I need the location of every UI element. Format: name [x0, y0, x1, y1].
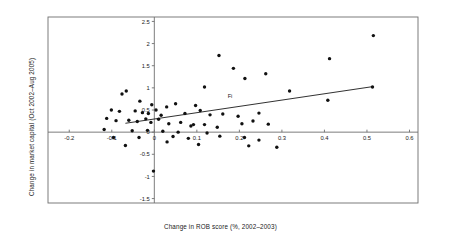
- y-tick-label: -1: [145, 174, 150, 180]
- data-point: [240, 122, 243, 125]
- data-point: [165, 140, 168, 143]
- data-point: [267, 122, 270, 125]
- plot-canvas: -0.2-0.100.10.20.30.40.50.6 -1.5-1-0.500…: [0, 0, 458, 238]
- data-point: [275, 146, 278, 149]
- data-point: [146, 129, 149, 132]
- data-point: [102, 128, 105, 131]
- data-point: [216, 126, 219, 129]
- x-tick-label: -0.2: [64, 135, 74, 141]
- data-point: [251, 119, 254, 122]
- data-point: [167, 122, 170, 125]
- plot-axes: [48, 17, 418, 203]
- data-point: [183, 112, 186, 115]
- data-point: [372, 34, 375, 37]
- y-axis-ticks: -1.5-1-0.500.511.522.5: [140, 19, 155, 202]
- data-point: [257, 111, 260, 114]
- y-axis-label: Change in market capital (Oct 2002–Aug 2…: [28, 58, 35, 196]
- data-point: [221, 112, 224, 115]
- data-point: [159, 114, 162, 117]
- data-point: [138, 99, 141, 102]
- y-tick-label: 1.5: [142, 63, 150, 69]
- data-point: [197, 143, 200, 146]
- scatter-plot-figure: -0.2-0.100.10.20.30.40.50.6 -1.5-1-0.500…: [0, 0, 458, 238]
- data-point: [192, 123, 195, 126]
- data-point: [112, 136, 115, 139]
- x-tick-label: 0.4: [320, 135, 329, 141]
- data-point: [208, 113, 211, 116]
- x-tick-label: 0.6: [405, 135, 413, 141]
- data-point: [141, 111, 144, 114]
- data-point: [218, 134, 221, 137]
- data-point: [120, 92, 123, 95]
- data-point: [136, 120, 139, 123]
- data-point: [199, 109, 202, 112]
- data-point: [174, 102, 177, 105]
- trend-line: [125, 87, 373, 124]
- data-point: [232, 67, 235, 70]
- data-point: [150, 103, 153, 106]
- data-point: [161, 130, 164, 133]
- data-point: [257, 138, 260, 141]
- y-tick-label: -0.5: [140, 151, 150, 157]
- data-point: [371, 85, 374, 88]
- data-point: [131, 129, 134, 132]
- x-axis-label: Change in ROB score (%, 2002–2003): [164, 223, 277, 230]
- data-point: [165, 105, 168, 108]
- data-point: [217, 54, 220, 57]
- data-point: [157, 118, 160, 121]
- data-point: [144, 117, 147, 120]
- y-tick-label: -1.5: [140, 196, 150, 202]
- data-point-annotation: Fi: [228, 93, 233, 99]
- data-point: [243, 136, 246, 139]
- data-point: [328, 57, 331, 60]
- y-tick-label: 2.5: [142, 19, 150, 25]
- y-tick-label: 1: [147, 85, 150, 91]
- regression-line: [125, 87, 373, 124]
- data-point: [179, 121, 182, 124]
- data-point: [137, 136, 140, 139]
- data-point: [105, 117, 108, 120]
- x-tick-label: 0.1: [193, 135, 201, 141]
- data-point: [243, 77, 246, 80]
- x-tick-label: -0.1: [107, 135, 117, 141]
- point-annotations: Fi: [228, 93, 233, 99]
- data-point: [147, 112, 150, 115]
- data-point: [326, 99, 329, 102]
- plot-frame: [48, 17, 418, 203]
- data-point: [187, 137, 190, 140]
- data-point: [125, 89, 128, 92]
- data-point: [247, 144, 250, 147]
- data-point: [203, 123, 206, 126]
- data-point: [176, 130, 179, 133]
- data-point: [114, 119, 117, 122]
- data-point: [133, 109, 136, 112]
- data-point: [110, 108, 113, 111]
- data-point: [171, 135, 174, 138]
- x-tick-label: 0.5: [363, 135, 371, 141]
- x-tick-label: 0: [153, 135, 156, 141]
- data-point: [264, 72, 267, 75]
- data-point: [194, 104, 197, 107]
- y-tick-label: 2: [147, 41, 150, 47]
- data-point: [154, 108, 157, 111]
- x-tick-label: 0.2: [235, 135, 243, 141]
- data-point: [124, 144, 127, 147]
- data-point: [149, 121, 152, 124]
- data-point: [152, 169, 155, 172]
- x-axis-ticks: -0.2-0.100.10.20.30.40.50.6: [64, 130, 413, 141]
- data-point: [127, 118, 130, 121]
- data-point: [236, 115, 239, 118]
- x-tick-label: 0.3: [278, 135, 286, 141]
- data-point: [203, 85, 206, 88]
- data-point: [205, 131, 208, 134]
- data-point: [288, 89, 291, 92]
- data-point: [118, 110, 121, 113]
